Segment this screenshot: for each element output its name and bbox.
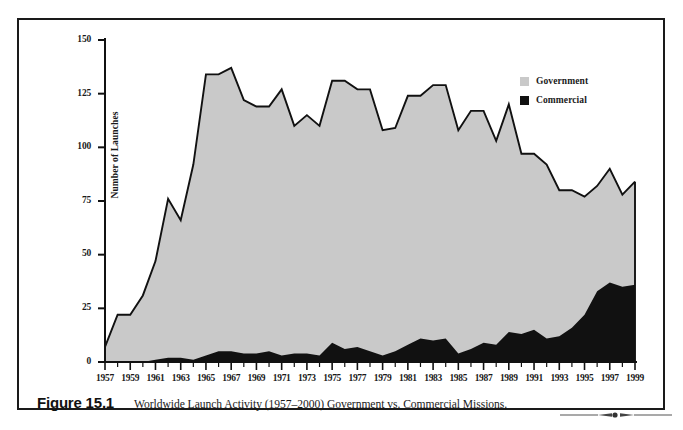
figure-frame: 150 125 100 75 50 25 0 Number of Launche…: [17, 18, 665, 410]
y-tick-75: 75: [61, 195, 91, 205]
legend-label-commercial: Commercial: [536, 95, 587, 105]
ornament-rule-icon: [560, 410, 672, 420]
y-tick-0: 0: [61, 356, 91, 366]
y-tick-150: 150: [61, 34, 91, 44]
chart-plot-area: 150 125 100 75 50 25 0 Number of Launche…: [19, 20, 663, 385]
legend-item-government: Government: [520, 76, 650, 86]
y-tick-25: 25: [61, 302, 91, 312]
y-tick-100: 100: [61, 141, 91, 151]
legend-label-government: Government: [536, 76, 588, 86]
legend-swatch-government: [520, 77, 529, 86]
figure-page: 150 125 100 75 50 25 0 Number of Launche…: [0, 0, 683, 430]
chart-legend: Government Commercial: [520, 76, 650, 114]
y-tick-50: 50: [61, 248, 91, 258]
legend-item-commercial: Commercial: [520, 95, 650, 105]
legend-swatch-commercial: [520, 96, 529, 105]
figure-number: Figure 15.1: [37, 394, 114, 411]
figure-caption-text: Worldwide Launch Activity (1957–2000) Go…: [134, 398, 507, 411]
x-tick-1999: 1999: [618, 373, 652, 383]
y-tick-125: 125: [61, 88, 91, 98]
figure-caption: Figure 15.1 Worldwide Launch Activity (1…: [37, 394, 647, 411]
y-axis-title: Number of Launches: [110, 85, 120, 225]
